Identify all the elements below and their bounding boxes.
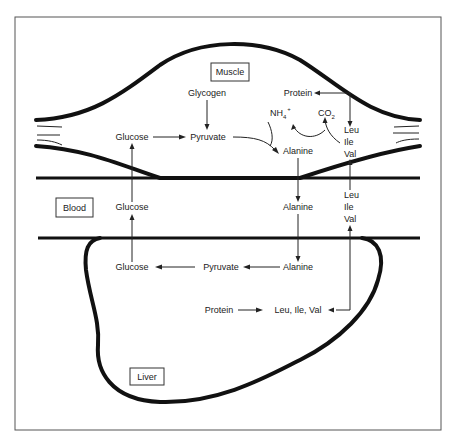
blood-alanine: Alanine: [283, 202, 313, 212]
muscle-leu: Leu: [344, 125, 359, 135]
muscle-pyruvate: Pyruvate: [190, 132, 226, 142]
glucose-alanine-cycle-diagram: Muscle Blood Liver Glycogen Glucose Pyru…: [0, 0, 456, 445]
liver-bcaa: Leu, Ile, Val: [275, 305, 322, 315]
blood-glucose: Glucose: [115, 202, 148, 212]
liver-protein: Protein: [205, 305, 234, 315]
muscle-glucose: Glucose: [115, 132, 148, 142]
blood-ile: Ile: [344, 202, 354, 212]
arrows: [130, 91, 353, 313]
liver-alanine: Alanine: [283, 262, 313, 272]
muscle-protein: Protein: [284, 88, 313, 98]
liver-glucose: Glucose: [115, 262, 148, 272]
blood-leu: Leu: [344, 190, 359, 200]
muscle-ile: Ile: [344, 137, 354, 147]
muscle-glycogen: Glycogen: [188, 88, 226, 98]
muscle-label: Muscle: [216, 67, 245, 77]
blood-val: Val: [344, 214, 356, 224]
muscle-val: Val: [344, 149, 356, 159]
muscle-co2: CO2: [318, 108, 336, 120]
liver-label: Liver: [137, 372, 157, 382]
blood-label: Blood: [63, 203, 86, 213]
muscle-nh4: NH4+: [270, 106, 291, 120]
liver-pyruvate: Pyruvate: [203, 262, 239, 272]
muscle-alanine: Alanine: [283, 146, 313, 156]
